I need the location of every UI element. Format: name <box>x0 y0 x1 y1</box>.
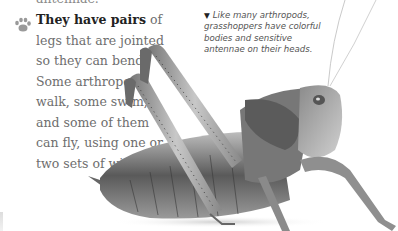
page-edge <box>0 212 3 231</box>
caption-marker-icon: ▼ <box>204 11 210 20</box>
photo-caption: ▼Like many arthropods, grasshoppers have… <box>204 10 334 55</box>
grasshopper-photo <box>0 0 398 231</box>
caption-text: Like many arthropods, grasshoppers have … <box>204 10 321 54</box>
book-page: antennae. They have pairs of legs that a… <box>0 0 398 231</box>
